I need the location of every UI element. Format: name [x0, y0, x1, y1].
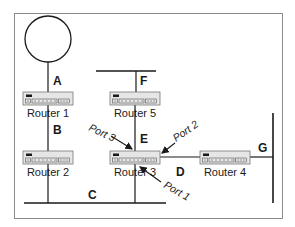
- router-5-icon: [110, 92, 160, 105]
- router-4-icon: [200, 151, 250, 164]
- router-4-label: Router 4: [204, 166, 246, 178]
- network-a-label: A: [53, 74, 62, 88]
- network-c-label: C: [88, 188, 97, 202]
- network-g-label: G: [258, 141, 267, 155]
- network-b-label: B: [53, 123, 62, 137]
- router-3-icon: [110, 151, 160, 164]
- router-2-icon: [23, 151, 73, 164]
- network-d-label: D: [176, 165, 185, 179]
- port-1-label: Port 1: [162, 178, 192, 202]
- ring-network-icon: [25, 16, 71, 62]
- network-e-label: E: [140, 132, 148, 146]
- network-f-label: F: [140, 74, 147, 88]
- router-2-label: Router 2: [27, 166, 69, 178]
- port-2-arrow: [162, 143, 175, 153]
- router-1-label: Router 1: [27, 107, 69, 119]
- port-3-label: Port 3: [87, 121, 118, 144]
- router-3-label: Router 3: [114, 166, 156, 178]
- router-1-icon: [23, 92, 73, 105]
- router-5-label: Router 5: [114, 107, 156, 119]
- port-2-label: Port 2: [170, 118, 200, 144]
- port-3-arrow: [111, 136, 132, 149]
- network-diagram: Router 1 Router 2 Router 3 Router 4 Rout…: [0, 0, 295, 227]
